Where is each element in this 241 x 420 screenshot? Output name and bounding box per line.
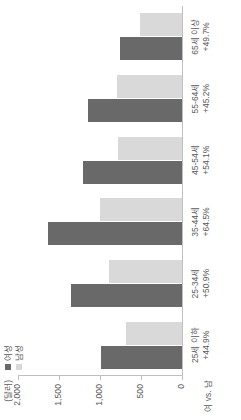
chart-viewport: 여성남성 (달러) 05001,0001,5002,000 25세 이하+44.… <box>0 0 241 420</box>
bar <box>117 75 182 98</box>
category-label: 25세 이하 <box>188 314 200 376</box>
category-change-label: +50.9% <box>201 253 211 315</box>
bar <box>126 322 182 345</box>
bar <box>118 137 182 160</box>
bar <box>83 161 182 184</box>
chart-stage: 여성남성 (달러) 05001,0001,5002,000 25세 이하+44.… <box>0 0 241 420</box>
bar <box>100 198 182 221</box>
category-label: 55-64세 <box>188 68 200 130</box>
category-change-label: +64.5% <box>201 191 211 253</box>
bar <box>88 99 182 122</box>
bar <box>48 222 182 245</box>
category-change-label: +49.7% <box>201 6 211 68</box>
bar <box>140 13 182 36</box>
category-label: 45-54세 <box>188 129 200 191</box>
category-change-label: +45.2% <box>201 68 211 130</box>
bar <box>71 284 182 307</box>
category-label: 65세 이상 <box>188 6 200 68</box>
plot-area: 여성남성 (달러) 05001,0001,5002,000 25세 이하+44.… <box>0 0 241 420</box>
bar <box>109 260 182 283</box>
category-change-label: +54.1% <box>201 129 211 191</box>
category-label: 35-44세 <box>188 191 200 253</box>
category-change-label: +44.9% <box>201 314 211 376</box>
category-axis-title: 여 vs. 남 <box>201 380 213 420</box>
bar <box>120 37 182 60</box>
category-label: 25-34세 <box>188 253 200 315</box>
bar <box>101 346 182 369</box>
